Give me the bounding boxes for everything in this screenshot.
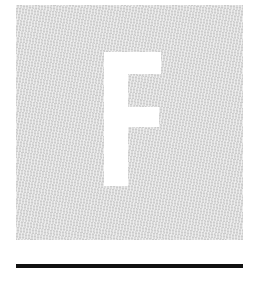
letter-f-top-arm (104, 52, 161, 74)
letter-f-middle-arm (104, 107, 159, 127)
divider-rule (16, 264, 243, 268)
letter-tile: F (16, 5, 243, 240)
letter-f-glyph: F (16, 5, 243, 240)
